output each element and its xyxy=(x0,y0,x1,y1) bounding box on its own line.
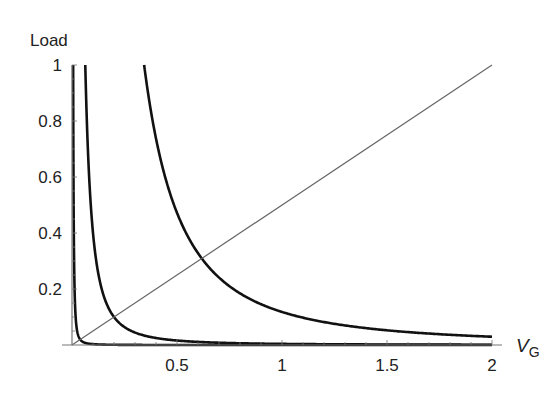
chart: 0.511.52 0.20.40.60.81 Load VG xyxy=(0,0,559,401)
x-tick-label: 2 xyxy=(487,356,496,375)
y-tick-label: 1 xyxy=(53,56,62,75)
x-tick-label: 1.5 xyxy=(375,356,399,375)
y-tick-label: 0.4 xyxy=(38,224,62,243)
x-tick-label: 1 xyxy=(277,356,286,375)
plot-curves xyxy=(72,65,492,345)
y-ticks: 0.20.40.60.81 xyxy=(38,56,77,331)
series-curve-2 xyxy=(85,65,492,345)
y-tick-label: 0.6 xyxy=(38,168,62,187)
y-tick-label: 0.8 xyxy=(38,112,62,131)
y-axis-title: Load xyxy=(30,31,68,50)
series-curve-3 xyxy=(144,65,492,337)
x-tick-label: 0.5 xyxy=(165,356,189,375)
x-axis-title-subscript: G xyxy=(529,344,540,360)
x-axis-title: VG xyxy=(516,335,540,360)
series-load-line xyxy=(72,65,492,345)
y-tick-label: 0.2 xyxy=(38,280,62,299)
